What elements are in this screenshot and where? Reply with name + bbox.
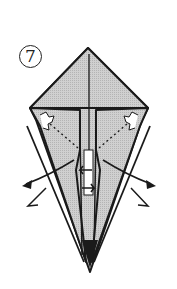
right-side-flap: [92, 108, 150, 262]
origami-diagram: 7: [0, 0, 177, 289]
fold-drawing: [0, 0, 177, 289]
left-side-flap: [27, 108, 86, 262]
